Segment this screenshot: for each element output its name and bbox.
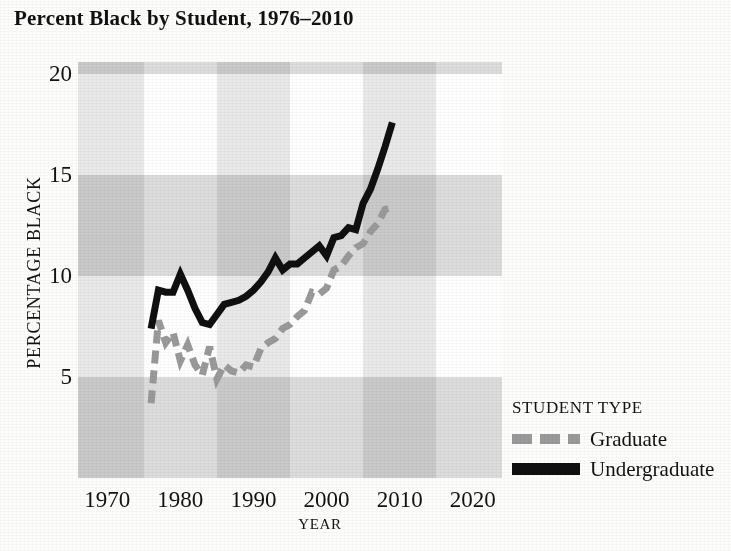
x-tick-label: 2000 <box>287 488 367 511</box>
y-axis-ticks: 5 10 15 20 <box>0 0 72 551</box>
y-tick-label: 5 <box>6 365 72 388</box>
y-tick-label: 15 <box>6 163 72 186</box>
series-line-graduate <box>151 207 392 403</box>
x-axis-title: YEAR <box>250 516 390 533</box>
dashed-line-swatch-icon <box>512 434 580 444</box>
plot-area <box>78 62 502 478</box>
x-tick-label: 1980 <box>140 488 220 511</box>
x-tick-label: 2010 <box>360 488 440 511</box>
legend-item-graduate[interactable]: Graduate <box>512 424 727 454</box>
y-tick-label: 10 <box>6 264 72 287</box>
legend-item-undergraduate[interactable]: Undergraduate <box>512 454 727 484</box>
chart-figure: Percent Black by Student, 1976–2010 PERC… <box>0 0 731 551</box>
legend-item-label: Undergraduate <box>590 459 714 480</box>
legend-title: STUDENT TYPE <box>512 398 727 418</box>
series-lines <box>78 62 502 478</box>
x-tick-label: 1990 <box>213 488 293 511</box>
legend-item-label: Graduate <box>590 429 667 450</box>
x-tick-label: 1970 <box>67 488 147 511</box>
x-tick-label: 2020 <box>433 488 513 511</box>
legend: STUDENT TYPE Graduate Undergraduate <box>512 398 727 484</box>
series-line-undergraduate <box>151 123 392 329</box>
y-tick-label: 20 <box>6 62 72 85</box>
solid-line-swatch-icon <box>512 463 580 475</box>
